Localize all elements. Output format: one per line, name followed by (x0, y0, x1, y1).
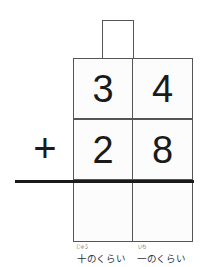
answer-ones-box[interactable] (132, 180, 193, 242)
top-tens-digit: 3 (73, 58, 133, 119)
carry-box[interactable] (102, 20, 134, 59)
second-ones-digit: 8 (132, 119, 193, 180)
addition-grid: 3 4 2 8 (73, 58, 193, 242)
top-ones-digit: 4 (132, 58, 193, 119)
sum-line (15, 180, 194, 183)
second-tens-digit: 2 (73, 119, 133, 180)
ones-ruby: いち (138, 243, 146, 249)
tens-ruby: じゅう (76, 243, 88, 249)
tens-place-label: 十のくらい (77, 251, 126, 265)
answer-tens-box[interactable] (73, 180, 133, 242)
plus-sign: + (30, 128, 60, 168)
ones-place-label: 一のくらい (137, 251, 186, 265)
